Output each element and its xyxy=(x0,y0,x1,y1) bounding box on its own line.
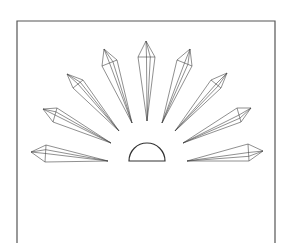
crystal-far-right xyxy=(187,144,263,161)
sunburst-crystal-diagram xyxy=(0,0,286,251)
crystal-right-high xyxy=(162,49,192,123)
crystal-right-low xyxy=(183,108,251,143)
frame-border xyxy=(17,21,275,243)
crystal-left-low xyxy=(43,108,111,143)
crystal-right-mid xyxy=(175,73,227,131)
crystal-far-left xyxy=(31,145,108,162)
crystal-left-high xyxy=(102,49,132,123)
semicircle-dome xyxy=(129,143,165,161)
crystal-center xyxy=(138,41,155,121)
crystal-group xyxy=(31,41,263,162)
